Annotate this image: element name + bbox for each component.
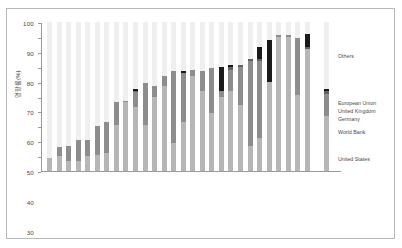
legend-entry-label: European Union <box>338 99 376 107</box>
bar-segment <box>133 89 138 90</box>
bar-segment <box>85 156 90 171</box>
bar-segment <box>190 76 195 171</box>
bar-segment <box>66 146 71 161</box>
bar-segment <box>171 71 176 143</box>
bar-segment <box>276 35 281 36</box>
bar-segment <box>228 91 233 171</box>
bar-segment <box>190 70 195 76</box>
bar-segment <box>104 153 109 171</box>
bar-background <box>47 22 52 171</box>
bar-segment <box>152 97 157 172</box>
bar-segment <box>76 161 81 171</box>
bar-segment <box>133 107 138 171</box>
y-tick-mark: 100 <box>38 23 41 24</box>
plot-area: 0102030405060708090100 브라질말레이시아인도페루칠레아르헨… <box>41 23 306 172</box>
bar-segment <box>143 125 148 171</box>
bar-segment <box>248 61 253 146</box>
bar-segment <box>228 65 233 66</box>
y-tick-mark: 0 <box>38 172 41 173</box>
bar-segment <box>123 102 128 171</box>
legend-entry-label: Others <box>338 52 354 60</box>
bar-segment <box>209 68 214 113</box>
y-tick-label: 60 <box>27 139 34 146</box>
bar-segment <box>133 92 138 107</box>
bar-segment <box>57 147 62 156</box>
chart-legend: OthersEuropean UnionUnited KingdomGerman… <box>338 23 396 173</box>
bar-segment <box>276 37 281 171</box>
legend-entry-label: United Kingdom <box>338 107 376 115</box>
bar-segment <box>238 105 243 171</box>
bar-segment <box>257 59 262 60</box>
bar-segment <box>181 122 186 171</box>
y-tick-mark: 90 <box>38 38 41 39</box>
y-axis-title: 영향률(%) <box>13 70 22 98</box>
bar-segment <box>257 47 262 59</box>
y-tick-label: 80 <box>27 79 34 86</box>
bar-segment <box>143 83 148 125</box>
bar-segment <box>286 37 291 171</box>
bar-segment <box>286 35 291 36</box>
y-tick-label: 40 <box>27 198 34 205</box>
bar-segment <box>171 143 176 171</box>
bar-segment <box>324 89 329 90</box>
chart-figure: 영향률(%) 0102030405060708090100 브라질말레이시아인도… <box>0 0 402 248</box>
bar-segment <box>305 47 310 48</box>
legend-entry-label: United States <box>338 155 370 163</box>
bar-segment <box>95 126 100 154</box>
y-tick-mark: 40 <box>38 112 41 113</box>
bar-segment <box>114 125 119 171</box>
y-tick-label: 30 <box>27 228 34 235</box>
bar-segment <box>114 102 119 124</box>
bar-segment <box>324 116 329 171</box>
bar-segment <box>209 113 214 171</box>
bar-segment <box>47 158 52 171</box>
y-tick-mark: 60 <box>38 83 41 84</box>
bar-segment <box>162 86 167 171</box>
y-axis-line <box>41 23 42 172</box>
bar-segment <box>57 156 62 171</box>
bar-segment <box>76 140 81 161</box>
bar-segment <box>248 59 253 60</box>
y-tick-mark: 10 <box>38 157 41 158</box>
bar-segment <box>238 65 243 66</box>
bar-segment <box>181 71 186 72</box>
y-tick-mark: 30 <box>38 127 41 128</box>
bar-segment <box>267 40 272 82</box>
bar-segment <box>181 73 186 122</box>
y-tick-mark: 50 <box>38 98 41 99</box>
bar-segment <box>133 91 138 92</box>
bar-segment <box>324 94 329 116</box>
y-tick-label: 90 <box>27 49 34 56</box>
y-tick-mark: 70 <box>38 68 41 69</box>
bar-segment <box>104 122 109 153</box>
bar-segment <box>248 146 253 171</box>
bar-segment <box>219 97 224 172</box>
x-axis-line <box>41 171 341 172</box>
bar-segment <box>267 82 272 171</box>
bar-segment <box>66 161 71 171</box>
y-tick-mark: 80 <box>38 53 41 54</box>
y-tick-label: 100 <box>23 20 34 27</box>
bar-segment <box>219 67 224 91</box>
legend-entry-label: World Bank <box>338 128 365 136</box>
bar-segment <box>257 138 262 171</box>
bar-segment <box>152 86 157 96</box>
bar-segment <box>200 91 205 171</box>
bar-segment <box>162 76 167 86</box>
bar-segment <box>324 91 329 94</box>
legend-entry-label: Germany <box>338 115 360 123</box>
y-tick-label: 70 <box>27 109 34 116</box>
bar-segment <box>228 67 233 70</box>
bar-segment <box>123 101 128 102</box>
bar-segment <box>257 61 262 138</box>
bar-segment <box>228 70 233 91</box>
bar-segment <box>305 34 310 47</box>
bar-segment <box>295 38 300 95</box>
y-tick-mark: 20 <box>38 142 41 143</box>
bar-segment <box>85 140 90 156</box>
y-tick-label: 50 <box>27 169 34 176</box>
bar-segment <box>295 95 300 171</box>
bar-segment <box>219 91 224 97</box>
bar-segment <box>95 155 100 171</box>
bar-segment <box>238 67 243 106</box>
